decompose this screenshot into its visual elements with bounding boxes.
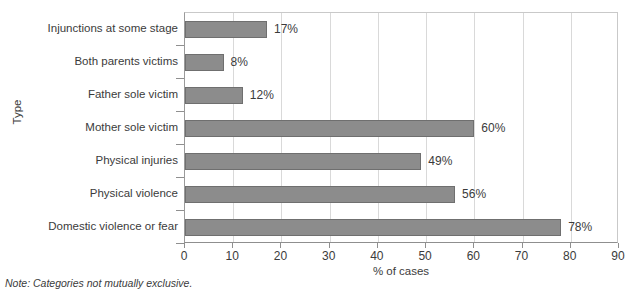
y-axis-tick bbox=[176, 243, 184, 244]
bar-value-label: 17% bbox=[267, 21, 298, 38]
x-axis-title: % of cases bbox=[184, 265, 618, 277]
category-label: Physical injuries bbox=[0, 144, 178, 177]
bar-row: 17% bbox=[185, 13, 619, 46]
category-label: Father sole victim bbox=[0, 78, 178, 111]
x-axis-tick-label: 30 bbox=[309, 249, 349, 263]
y-axis-tick bbox=[176, 78, 184, 79]
bar-value-label: 49% bbox=[421, 153, 452, 170]
x-axis-tick bbox=[232, 243, 233, 248]
category-label: Both parents victims bbox=[0, 45, 178, 78]
x-axis-tick bbox=[329, 243, 330, 248]
x-axis-tick bbox=[570, 243, 571, 248]
y-axis-tick bbox=[176, 144, 184, 145]
x-axis-tick bbox=[377, 243, 378, 248]
category-label: Injunctions at some stage bbox=[0, 12, 178, 45]
bar bbox=[185, 54, 224, 71]
category-label: Physical violence bbox=[0, 177, 178, 210]
plot-area: 17%8%12%60%49%56%78% bbox=[184, 12, 618, 243]
x-axis-tick-label: 10 bbox=[212, 249, 252, 263]
bar-row: 78% bbox=[185, 211, 619, 244]
x-axis-tick bbox=[473, 243, 474, 248]
category-label: Mother sole victim bbox=[0, 111, 178, 144]
x-axis-tick bbox=[522, 243, 523, 248]
category-label: Domestic violence or fear bbox=[0, 210, 178, 243]
x-axis-tick-label: 70 bbox=[502, 249, 542, 263]
bar bbox=[185, 153, 421, 170]
x-axis-tick-label: 0 bbox=[164, 249, 204, 263]
bar-row: 12% bbox=[185, 79, 619, 112]
bar-value-label: 78% bbox=[561, 219, 592, 236]
bar bbox=[185, 21, 267, 38]
y-axis-tick bbox=[176, 177, 184, 178]
x-axis-tick-label: 40 bbox=[357, 249, 397, 263]
x-axis-tick-label: 90 bbox=[598, 249, 632, 263]
x-axis-tick-label: 80 bbox=[550, 249, 590, 263]
bar-value-label: 8% bbox=[224, 54, 248, 71]
x-axis-tick bbox=[618, 243, 619, 248]
bar-value-label: 12% bbox=[243, 87, 274, 104]
bar-row: 56% bbox=[185, 178, 619, 211]
x-axis-tick-label: 50 bbox=[405, 249, 445, 263]
chart-note: Note: Categories not mutually exclusive. bbox=[5, 277, 192, 289]
x-axis-tick-label: 60 bbox=[453, 249, 493, 263]
y-axis-tick bbox=[176, 45, 184, 46]
bar bbox=[185, 186, 455, 203]
x-axis-tick bbox=[425, 243, 426, 248]
bar-row: 8% bbox=[185, 46, 619, 79]
x-axis-tick bbox=[184, 243, 185, 248]
bar-value-label: 60% bbox=[474, 120, 505, 137]
y-axis-tick bbox=[176, 111, 184, 112]
x-axis-tick bbox=[280, 243, 281, 248]
bar bbox=[185, 87, 243, 104]
bar bbox=[185, 120, 474, 137]
bar-chart: 17%8%12%60%49%56%78% Type % of cases Not… bbox=[0, 0, 632, 300]
bar bbox=[185, 219, 561, 236]
bar-row: 49% bbox=[185, 145, 619, 178]
bar-value-label: 56% bbox=[455, 186, 486, 203]
x-axis-tick-label: 20 bbox=[260, 249, 300, 263]
bar-row: 60% bbox=[185, 112, 619, 145]
y-axis-tick bbox=[176, 210, 184, 211]
